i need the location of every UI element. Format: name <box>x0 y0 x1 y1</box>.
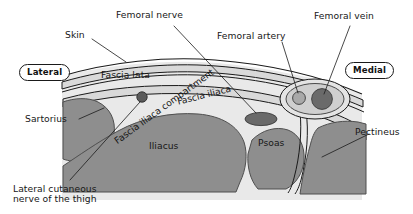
label-femoral-artery: Femoral artery <box>217 31 285 41</box>
label-skin: Skin <box>65 30 85 40</box>
label-iliacus: Iliacus <box>149 141 178 151</box>
femoral-artery-vessel <box>293 92 306 105</box>
femoral-sheath <box>280 79 350 119</box>
label-sartorius: Sartorius <box>25 114 67 124</box>
label-pectineus: Pectineus <box>355 127 400 137</box>
label-psoas: Psoas <box>258 138 284 148</box>
orientation-badge-medial: Medial <box>345 62 394 79</box>
lateral-cutaneous-nerve-structure <box>137 92 147 102</box>
femoral-vein-vessel <box>312 89 333 110</box>
label-femoral-vein: Femoral vein <box>314 11 374 21</box>
orientation-badge-lateral: Lateral <box>19 64 70 81</box>
label-fascia-lata: Fascia lata <box>101 70 150 80</box>
femoral-nerve-structure <box>245 112 277 125</box>
label-lateral-cutaneous-nerve: Lateral cutaneous nerve of the thigh <box>13 184 97 205</box>
anatomy-diagram <box>0 0 413 214</box>
label-femoral-nerve: Femoral nerve <box>116 10 183 20</box>
leader-skin <box>92 39 126 62</box>
